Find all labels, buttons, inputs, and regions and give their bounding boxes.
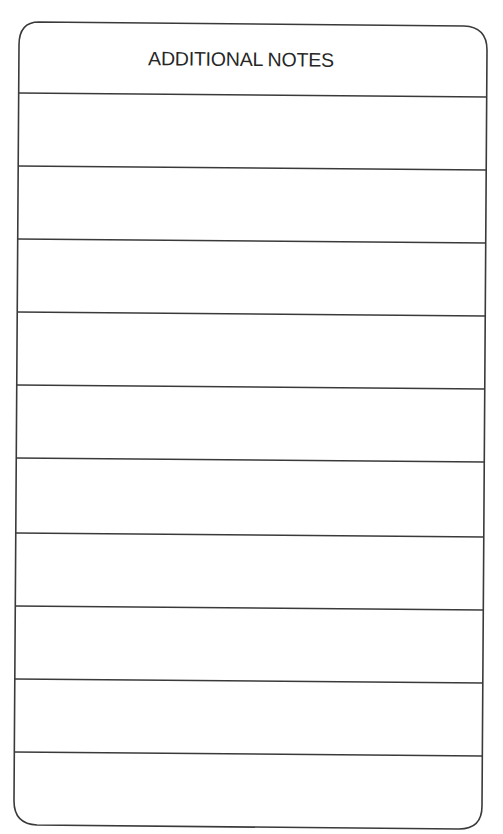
note-row-8[interactable]: [22, 610, 482, 678]
note-row-1[interactable]: [22, 97, 482, 165]
note-row-10[interactable]: [22, 756, 482, 824]
note-row-5[interactable]: [22, 389, 482, 457]
note-row-2[interactable]: [22, 170, 482, 238]
card-title: ADDITIONAL NOTES: [118, 47, 364, 72]
note-row-7[interactable]: [22, 537, 482, 605]
note-row-3[interactable]: [22, 243, 482, 311]
note-row-4[interactable]: [22, 316, 482, 384]
note-row-9[interactable]: [22, 683, 482, 751]
notes-page: ADDITIONAL NOTES: [0, 0, 503, 834]
note-row-6[interactable]: [22, 462, 482, 530]
